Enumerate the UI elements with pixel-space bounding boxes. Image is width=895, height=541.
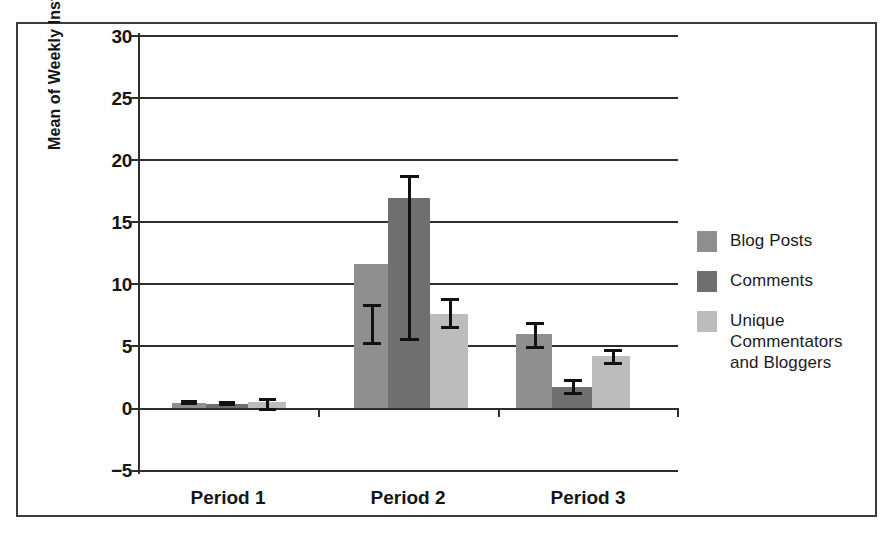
y-tick-mark-25 [130, 97, 138, 99]
x-category-label-period-2: Period 2 [318, 487, 498, 509]
legend-label-unique-line-2: Commentators [730, 331, 843, 352]
y-tick-mark-30 [130, 35, 138, 37]
error-bar-period1-comments [219, 401, 235, 406]
legend-swatch-blog-posts [697, 231, 717, 252]
x-tick-mark-1 [138, 408, 140, 417]
y-tick-mark-5 [130, 345, 138, 347]
gridline-20 [138, 159, 678, 161]
error-bar-period1-blog-posts [181, 400, 197, 405]
gridline-neg5 [138, 470, 678, 472]
error-bar-period2-unique [441, 298, 459, 329]
legend-label-unique-line-1: Unique [730, 310, 843, 331]
y-tick-mark-0 [130, 408, 138, 410]
chart-figure: Mean of Weekly Instances 30 25 20 15 10 … [0, 0, 895, 541]
y-tick-label-25: 25 [96, 88, 132, 110]
error-bar-period3-blog-posts [526, 322, 544, 349]
error-bar-period3-comments [564, 379, 582, 395]
y-tick-label-5: 5 [96, 336, 132, 358]
y-tick-label-30: 30 [96, 26, 132, 48]
legend-swatch-comments [697, 271, 717, 292]
gridline-25 [138, 97, 678, 99]
y-tick-label-20: 20 [96, 150, 132, 172]
legend-swatch-unique-commentators [697, 311, 717, 332]
error-bar-period3-unique [604, 349, 622, 365]
legend-label-comments: Comments [730, 270, 813, 291]
legend-item-comments: Comments [697, 270, 862, 292]
y-tick-label-10: 10 [96, 274, 132, 296]
x-category-label-period-1: Period 1 [138, 487, 318, 509]
y-tick-label-15: 15 [96, 212, 132, 234]
x-tick-mark-3 [498, 408, 500, 417]
y-tick-mark-20 [130, 159, 138, 161]
x-tick-mark-4 [677, 408, 679, 417]
gridline-zero-baseline [138, 408, 678, 410]
y-tick-label-neg5: −5 [92, 460, 132, 482]
legend-item-blog-posts: Blog Posts [697, 230, 862, 252]
error-bar-period1-unique [259, 398, 276, 411]
x-tick-mark-2 [318, 408, 320, 417]
x-category-label-period-3: Period 3 [498, 487, 678, 509]
legend-label-unique-line-3: and Bloggers [730, 352, 843, 373]
legend-label-blog-posts: Blog Posts [730, 230, 812, 251]
gridline-30 [138, 35, 678, 37]
y-tick-mark-15 [130, 221, 138, 223]
error-bar-period2-blog-posts [363, 304, 381, 345]
error-bar-period2-comments [400, 175, 419, 341]
y-tick-mark-neg5 [130, 470, 138, 472]
legend-label-unique-commentators: Unique Commentators and Bloggers [730, 310, 843, 373]
y-tick-mark-10 [130, 283, 138, 285]
y-axis-title: Mean of Weekly Instances [46, 0, 64, 150]
y-tick-label-0: 0 [96, 398, 132, 420]
legend-item-unique-commentators: Unique Commentators and Bloggers [697, 310, 862, 373]
legend: Blog Posts Comments Unique Commentators … [697, 230, 862, 391]
plot-area [138, 35, 678, 470]
